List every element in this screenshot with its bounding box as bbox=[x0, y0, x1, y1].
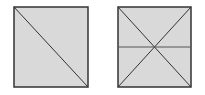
square-right bbox=[118, 7, 191, 87]
diagram-canvas bbox=[0, 0, 205, 95]
square-left bbox=[14, 7, 88, 87]
